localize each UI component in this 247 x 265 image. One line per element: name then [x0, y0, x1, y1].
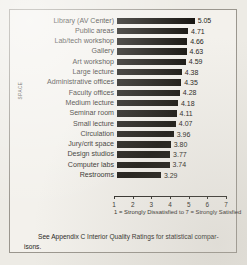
bar-row: Medium lecture4.18 [26, 98, 232, 108]
bar-track: 4.59 [117, 57, 232, 67]
x-axis-tick-label: 7 [224, 201, 228, 208]
bar [117, 79, 181, 85]
bar-value-label: 4.11 [180, 110, 193, 117]
bar-value-label: 4.35 [184, 79, 198, 86]
x-axis-caption: 1 = Strongly Dissatisfied to 7 = Strongl… [114, 209, 226, 215]
bar-category-label: Design studios [26, 151, 117, 158]
bar-row: Circulation3.96 [26, 129, 232, 139]
x-axis-tick [226, 196, 227, 199]
bar-category-label: Seminar room [26, 110, 117, 117]
bar [117, 162, 170, 168]
bar-category-label: Lab/tech workshop [26, 38, 117, 45]
bar-value-label: 4.07 [179, 120, 193, 127]
x-axis-tick-label: 3 [150, 201, 154, 208]
bar-row: Administrative offices4.35 [26, 78, 232, 88]
x-axis-tick-label: 4 [168, 201, 172, 208]
bar [117, 69, 182, 75]
bar-category-label: Library (AV Center) [26, 18, 117, 25]
bar [117, 48, 187, 54]
bar-row: Gallery4.63 [26, 47, 232, 57]
x-axis-tick-label: 5 [187, 201, 191, 208]
bar [117, 121, 176, 127]
bar [117, 151, 170, 157]
caption-line-2: isons. [24, 243, 41, 250]
bar-chart: SPACE Library (AV Center)5.05Public area… [10, 10, 236, 190]
bar [117, 28, 188, 34]
bar-value-label: 4.66 [190, 38, 204, 45]
bar [117, 59, 186, 65]
bar-row: Faculty offices4.28 [26, 88, 232, 98]
bar-value-label: 4.71 [191, 28, 205, 35]
bar-track: 4.18 [117, 98, 232, 108]
bar-track: 3.29 [117, 170, 232, 180]
bar [117, 38, 187, 44]
caption-line-1: See Appendix C Interior Quality Ratings … [24, 233, 219, 240]
x-axis-tick-label: 6 [206, 201, 210, 208]
bar-track: 4.28 [117, 88, 232, 98]
bar-value-label: 3.80 [174, 141, 188, 148]
x-axis-tick-label: 2 [131, 201, 135, 208]
bar-track: 4.71 [117, 26, 232, 36]
bar-row: Computer labs3.74 [26, 160, 232, 170]
bar-row: Library (AV Center)5.05 [26, 16, 232, 26]
bar-row: Restrooms3.29 [26, 170, 232, 180]
bar-track: 3.77 [117, 150, 232, 160]
bar-value-label: 4.59 [189, 58, 203, 65]
bar [117, 18, 195, 24]
bar-row: Design studios3.77 [26, 150, 232, 160]
bar-row: Seminar room4.11 [26, 109, 232, 119]
bar-value-label: 4.63 [190, 48, 204, 55]
bar-track: 3.74 [117, 160, 232, 170]
bar-row: Jury/crit space3.80 [26, 140, 232, 150]
figure-page: SPACE Library (AV Center)5.05Public area… [0, 0, 247, 265]
bar-track: 4.63 [117, 47, 232, 57]
bar-category-label: Art workshop [26, 59, 117, 66]
bar-value-label: 4.18 [181, 100, 195, 107]
bar-category-label: Restrooms [26, 172, 117, 179]
y-axis-label: SPACE [18, 71, 23, 111]
bar-category-label: Public areas [26, 28, 117, 35]
figure-caption: See Appendix C Interior Quality Ratings … [24, 232, 224, 252]
bar-value-label: 3.96 [177, 131, 191, 138]
x-axis-tick [151, 196, 152, 199]
bar-track: 3.80 [117, 140, 232, 150]
figure-frame: SPACE Library (AV Center)5.05Public area… [9, 9, 237, 253]
bar [117, 131, 174, 137]
bar-category-label: Jury/crit space [26, 141, 117, 148]
bar-value-label: 3.77 [173, 151, 187, 158]
bar-category-label: Faculty offices [26, 90, 117, 97]
x-axis-tick [189, 196, 190, 199]
bar-category-label: Gallery [26, 48, 117, 55]
x-axis: 1234567 1 = Strongly Dissatisfied to 7 =… [114, 196, 226, 224]
bar [117, 110, 177, 116]
bar-value-label: 4.38 [185, 69, 199, 76]
bar [117, 172, 161, 178]
bar-track: 4.38 [117, 67, 232, 77]
bar-track: 4.07 [117, 119, 232, 129]
bar-track: 5.05 [117, 16, 232, 26]
bar [117, 100, 178, 106]
bar-row: Public areas4.71 [26, 26, 232, 36]
bar-row: Lab/tech workshop4.66 [26, 37, 232, 47]
bar-track: 4.66 [117, 37, 232, 47]
x-axis-tick [170, 196, 171, 199]
bar-category-label: Large lecture [26, 69, 117, 76]
x-axis-tick-label: 1 [112, 201, 116, 208]
bar-value-label: 5.05 [198, 17, 212, 24]
x-axis-tick [114, 196, 115, 199]
bar-value-label: 3.29 [164, 172, 178, 179]
bar-track: 4.35 [117, 78, 232, 88]
bar-row: Art workshop4.59 [26, 57, 232, 67]
x-axis-tick [207, 196, 208, 199]
bar-track: 3.96 [117, 129, 232, 139]
bar-value-label: 3.74 [173, 161, 187, 168]
bar [117, 141, 171, 147]
bar-category-label: Administrative offices [26, 79, 117, 86]
bar-track: 4.11 [117, 109, 232, 119]
bar [117, 90, 180, 96]
bar-category-label: Medium lecture [26, 100, 117, 107]
bar-value-label: 4.28 [183, 89, 197, 96]
bar-category-label: Computer labs [26, 162, 117, 169]
bar-rows: Library (AV Center)5.05Public areas4.71L… [26, 16, 232, 181]
bar-category-label: Small lecture [26, 121, 117, 128]
